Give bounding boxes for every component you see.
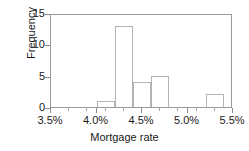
histogram-bar bbox=[97, 101, 115, 107]
x-axis-minor-tick-mark bbox=[177, 108, 178, 111]
y-axis-tick-label: 15 bbox=[27, 8, 45, 19]
histogram-figure: Frequency 051015 Mortgage rate 3.5%4.0%4… bbox=[0, 0, 249, 151]
y-axis-tick-mark bbox=[45, 45, 50, 46]
x-axis-minor-tick-mark bbox=[159, 108, 160, 111]
x-axis-tick-label: 3.5% bbox=[28, 114, 72, 126]
x-axis-minor-tick-mark bbox=[105, 108, 106, 111]
x-axis-minor-tick-mark bbox=[86, 108, 87, 111]
x-axis-tick-label: 4.5% bbox=[119, 114, 163, 126]
y-axis-tick-label: 5 bbox=[27, 71, 45, 82]
x-axis-tick-mark bbox=[141, 108, 142, 113]
x-axis-title: Mortgage rate bbox=[0, 131, 249, 143]
x-axis-tick-label: 5.5% bbox=[210, 114, 249, 126]
x-axis-minor-tick-mark bbox=[68, 108, 69, 111]
histogram-bar bbox=[133, 82, 151, 107]
x-axis-minor-tick-mark bbox=[123, 108, 124, 111]
y-axis-tick-label: 10 bbox=[27, 39, 45, 50]
y-axis-tick-label: 0 bbox=[27, 102, 45, 113]
y-axis-tick-mark bbox=[45, 14, 50, 15]
histogram-bar bbox=[115, 26, 133, 107]
x-axis-tick-label: 4.0% bbox=[74, 114, 118, 126]
plot-area bbox=[50, 14, 232, 108]
y-axis-tick-labels: 051015 bbox=[25, 0, 45, 151]
x-axis-tick-mark bbox=[232, 108, 233, 113]
x-axis-tick-mark bbox=[50, 108, 51, 113]
histogram-bar bbox=[151, 76, 169, 107]
x-axis-minor-tick-mark bbox=[214, 108, 215, 111]
x-axis-tick-mark bbox=[96, 108, 97, 113]
y-axis-tick-mark bbox=[45, 77, 50, 78]
x-axis-minor-tick-mark bbox=[196, 108, 197, 111]
x-axis-tick-label: 5.0% bbox=[165, 114, 209, 126]
histogram-bar bbox=[206, 94, 224, 107]
x-axis-tick-mark bbox=[187, 108, 188, 113]
